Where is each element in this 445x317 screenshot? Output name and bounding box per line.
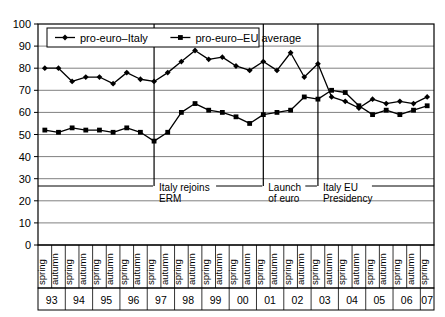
x-axis-year-label: 98 — [182, 294, 194, 306]
series-markers — [42, 48, 430, 144]
x-axis-season-label: autumn — [104, 253, 115, 285]
x-axis-year-label: 01 — [264, 294, 276, 306]
data-point-marker-eu-average — [384, 108, 389, 113]
x-axis-year-label: 94 — [73, 294, 85, 306]
data-point-marker-eu-average — [179, 110, 184, 115]
x-axis-season-label: spring — [254, 259, 265, 285]
data-point-marker-eu-average — [247, 121, 252, 126]
annotation-marker-lines — [154, 24, 318, 186]
x-axis-season-label: autumn — [377, 253, 388, 285]
data-point-marker-eu-average — [193, 101, 198, 106]
legend-label-eu-average: pro-euro–EU average — [195, 32, 301, 44]
data-point-marker-eu-average — [97, 128, 102, 133]
x-axis-year-label: 97 — [155, 294, 167, 306]
x-axis-year-label: 06 — [401, 294, 413, 306]
x-axis-season-label: spring — [200, 259, 211, 285]
x-axis-season-label: spring — [118, 259, 129, 285]
x-axis-season-label: autumn — [323, 253, 334, 285]
chart-container: 0102030405060708090100 Italy rejoinsERML… — [0, 0, 445, 317]
y-axis-tick-labels: 0102030405060708090100 — [13, 18, 31, 251]
data-point-marker-eu-average — [397, 112, 402, 117]
data-point-marker-italy — [383, 101, 389, 107]
x-axis-season-label: autumn — [131, 253, 142, 285]
x-axis-year-label: 05 — [374, 294, 386, 306]
data-point-marker-italy — [397, 98, 403, 104]
x-axis-season-label: spring — [145, 259, 156, 285]
data-point-marker-eu-average — [275, 110, 280, 115]
x-axis-season-label: spring — [63, 259, 74, 285]
x-axis-year-label: 07 — [421, 294, 433, 306]
x-axis-year-label: 02 — [292, 294, 304, 306]
x-axis-season-label: spring — [418, 259, 429, 285]
x-axis-season-labels: springautumnspringautumnspringautumnspri… — [36, 253, 429, 285]
x-axis-year-label: 96 — [128, 294, 140, 306]
x-axis-season-label: spring — [227, 259, 238, 285]
data-point-marker-eu-average — [302, 95, 307, 100]
data-point-marker-eu-average — [70, 125, 75, 130]
legend-marker-eu-average — [178, 35, 183, 40]
x-axis-season-label: autumn — [241, 253, 252, 285]
x-axis-season-label: spring — [282, 259, 293, 285]
y-axis-tick-label: 40 — [19, 151, 31, 163]
annotation-label-line2: of euro — [268, 193, 300, 204]
y-axis-tick-label: 90 — [19, 40, 31, 52]
data-point-marker-italy — [97, 74, 103, 80]
x-axis-season-label: spring — [36, 259, 47, 285]
x-axis-season-label: spring — [336, 259, 347, 285]
data-point-marker-eu-average — [138, 130, 143, 135]
x-axis-season-label: spring — [391, 259, 402, 285]
data-point-marker-eu-average — [83, 128, 88, 133]
data-point-marker-italy — [42, 65, 48, 71]
x-axis-season-label: autumn — [49, 253, 60, 285]
x-axis-season-label: spring — [172, 259, 183, 285]
legend-label-italy: pro-euro–Italy — [80, 32, 148, 44]
x-axis-year-label: 99 — [210, 294, 222, 306]
data-point-marker-eu-average — [152, 139, 157, 144]
x-axis-season-label: autumn — [213, 253, 224, 285]
y-axis-tick-label: 0 — [25, 239, 31, 251]
data-point-marker-eu-average — [124, 125, 129, 130]
grid-lines — [38, 46, 434, 223]
data-point-marker-eu-average — [370, 112, 375, 117]
x-axis-year-label: 04 — [346, 294, 358, 306]
data-point-marker-italy — [411, 101, 417, 107]
y-axis-tick-label: 80 — [19, 62, 31, 74]
x-axis-season-label: spring — [309, 259, 320, 285]
x-axis-year-label: 00 — [237, 294, 249, 306]
data-point-marker-italy — [329, 94, 335, 100]
data-point-marker-eu-average — [425, 103, 430, 108]
data-point-marker-eu-average — [206, 108, 211, 113]
y-axis-tick-label: 60 — [19, 106, 31, 118]
x-axis-season-label: autumn — [405, 253, 416, 285]
data-point-marker-eu-average — [234, 114, 239, 119]
x-axis-season-label: autumn — [295, 253, 306, 285]
data-point-marker-italy — [83, 74, 89, 80]
x-axis-season-label: autumn — [186, 253, 197, 285]
x-axis-season-label: autumn — [268, 253, 279, 285]
annotation-label-line2: Presidency — [323, 193, 372, 204]
x-axis-year-labels: 939495969798990001020304050607 — [46, 294, 433, 306]
annotation-label-line2: ERM — [159, 193, 181, 204]
x-axis-year-label: 93 — [46, 294, 58, 306]
annotation-label-line1: Launch — [268, 182, 301, 193]
annotation-label-line1: Italy EU — [323, 182, 358, 193]
y-axis-tick-label: 30 — [19, 173, 31, 185]
data-point-marker-eu-average — [343, 90, 348, 95]
y-axis-tick-label: 20 — [19, 195, 31, 207]
x-axis-season-label: autumn — [77, 253, 88, 285]
data-point-marker-italy — [138, 76, 144, 82]
x-axis-season-label: spring — [364, 259, 375, 285]
x-axis-year-label: 03 — [319, 294, 331, 306]
data-point-marker-eu-average — [165, 130, 170, 135]
y-axis-tick-label: 100 — [13, 18, 31, 30]
x-axis-season-label: autumn — [159, 253, 170, 285]
data-point-marker-eu-average — [288, 108, 293, 113]
series-line-italy — [45, 51, 427, 108]
data-point-marker-eu-average — [220, 110, 225, 115]
x-axis-year-label: 95 — [100, 294, 112, 306]
data-point-marker-eu-average — [329, 88, 334, 93]
x-axis-season-label: spring — [90, 259, 101, 285]
data-point-marker-eu-average — [56, 130, 61, 135]
x-axis-season-label: autumn — [350, 253, 361, 285]
data-point-marker-italy — [342, 98, 348, 104]
